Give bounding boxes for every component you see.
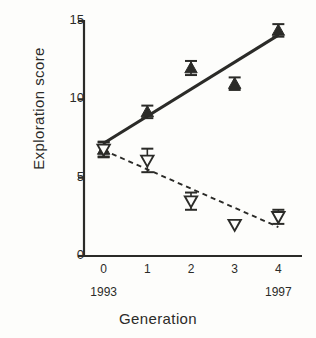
y-tick-label: 15 bbox=[50, 12, 84, 27]
x-tick-label: 0 bbox=[92, 262, 116, 276]
y-axis-title: Exploration score bbox=[30, 9, 47, 209]
x-year-label: 1993 bbox=[81, 285, 127, 299]
x-tick-label: 4 bbox=[266, 262, 290, 276]
x-year-label: 1997 bbox=[255, 285, 301, 299]
x-axis-title: Generation bbox=[0, 310, 316, 327]
x-tick-label: 1 bbox=[135, 262, 159, 276]
x-tick-label: 3 bbox=[223, 262, 247, 276]
y-tick-label: 0 bbox=[50, 247, 84, 262]
y-tick-label: 10 bbox=[50, 90, 84, 105]
error-bars bbox=[98, 24, 285, 224]
x-tick-label: 2 bbox=[179, 262, 203, 276]
data-markers bbox=[97, 24, 284, 231]
y-tick-label: 5 bbox=[50, 169, 84, 184]
